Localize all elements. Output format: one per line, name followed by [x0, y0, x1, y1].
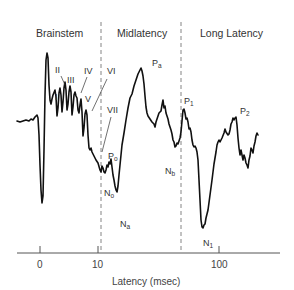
peak-label-No: No — [104, 188, 115, 199]
peak-label-VII: VII — [107, 105, 118, 115]
waveform-trace — [17, 53, 258, 228]
peak-label-N1: N1 — [203, 238, 214, 249]
peak-label-P1: P1 — [184, 96, 194, 107]
leader-line-VI — [92, 79, 107, 111]
peak-label-II: II — [55, 65, 60, 75]
x-tick-label-0: 0 — [37, 259, 43, 270]
peak-label-Pa: Pa — [152, 58, 162, 69]
leader-line-II — [61, 76, 65, 85]
x-axis-title: Latency (msec) — [112, 276, 180, 287]
peak-label-Po: Po — [108, 151, 118, 162]
peak-label-I: I — [55, 92, 58, 102]
region-label-brainstem: Brainstem — [36, 27, 84, 39]
leader-line-VII — [102, 117, 111, 152]
x-tick-label-10: 10 — [92, 259, 104, 270]
x-tick-label-100: 100 — [211, 259, 228, 270]
region-label-long-latency: Long Latency — [200, 27, 264, 39]
peak-label-Na: Na — [120, 219, 131, 230]
peak-label-V: V — [85, 94, 91, 104]
peak-label-IV: IV — [84, 66, 93, 76]
peak-label-III: III — [67, 75, 75, 85]
region-label-midlatency: Midlatency — [117, 27, 168, 39]
peak-label-VI: VI — [107, 66, 116, 76]
peak-label-Nb: Nb — [165, 166, 176, 177]
auditory-evoked-potential-chart: Brainstem Midlatency Long Latency I II I… — [0, 0, 294, 290]
leader-line-IV — [81, 77, 87, 93]
peak-label-P2: P2 — [240, 106, 250, 117]
